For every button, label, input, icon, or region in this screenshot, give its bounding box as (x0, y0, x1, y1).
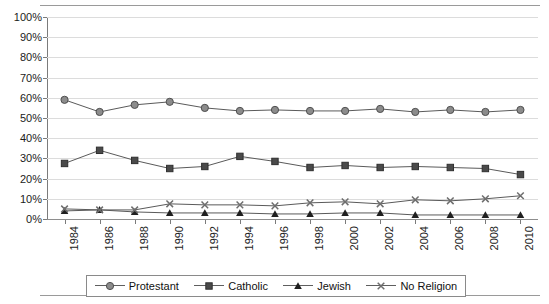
x-axis-label-2006: 2006 (454, 226, 465, 250)
data-point-marker-circle (412, 108, 419, 115)
data-point-marker-square (377, 164, 383, 170)
legend-marker-triangle-icon (283, 280, 313, 292)
data-point-marker-square (307, 164, 313, 170)
legend-label: Jewish (317, 280, 351, 292)
y-axis-label-40%: 40% (20, 133, 42, 144)
data-point-marker-square (96, 147, 102, 153)
y-axis-label-50%: 50% (20, 113, 42, 124)
x-axis-label-1996: 1996 (279, 226, 290, 250)
chart-page: 0%10%20%30%40%50%60%70%80%90%100% 198419… (0, 0, 549, 304)
line-chart-figure: 0%10%20%30%40%50%60%70%80%90%100% 198419… (0, 10, 549, 295)
x-tick-mark (205, 220, 206, 224)
x-axis-label-1986: 1986 (104, 226, 115, 250)
x-axis-label-1984: 1984 (69, 226, 80, 250)
top-divider-rule (40, 5, 540, 6)
legend-marker-circle-icon (95, 280, 125, 292)
x-tick-mark (65, 220, 66, 224)
y-axis-label-70%: 70% (20, 72, 42, 83)
x-tick-mark (485, 220, 486, 224)
plot-area: 0%10%20%30%40%50%60%70%80%90%100% 198419… (47, 17, 538, 229)
data-point-marker-circle (106, 282, 113, 289)
data-point-marker-square (206, 283, 212, 289)
x-tick-mark (310, 220, 311, 224)
data-point-marker-circle (342, 107, 349, 114)
legend-label: Catholic (228, 280, 268, 292)
data-point-marker-square (412, 163, 418, 169)
series-catholic (61, 147, 523, 178)
y-axis-label-20%: 20% (20, 173, 42, 184)
x-tick-mark (415, 220, 416, 224)
x-tick-mark (170, 220, 171, 224)
x-tick-mark (380, 220, 381, 224)
x-axis-label-2000: 2000 (349, 226, 360, 250)
chart-legend: ProtestantCatholicJewishNo Religion (86, 275, 466, 297)
y-axis-label-80%: 80% (20, 52, 42, 63)
legend-label: Protestant (129, 280, 179, 292)
data-point-marker-circle (201, 104, 208, 111)
x-tick-mark (345, 220, 346, 224)
x-axis-label-1990: 1990 (174, 226, 185, 250)
series-protestant (61, 96, 524, 115)
legend-item-protestant[interactable]: Protestant (95, 280, 179, 292)
data-point-marker-square (482, 165, 488, 171)
x-tick-mark (100, 220, 101, 224)
x-tick-mark (450, 220, 451, 224)
x-axis-label-2008: 2008 (489, 226, 500, 250)
x-axis-label-1994: 1994 (244, 226, 255, 250)
series-lines-group (47, 17, 538, 220)
x-axis-label-2010: 2010 (524, 226, 535, 250)
data-point-marker-square (202, 163, 208, 169)
data-point-marker-square (447, 164, 453, 170)
data-point-marker-x (378, 283, 385, 290)
x-tick-mark (275, 220, 276, 224)
x-tick-mark (520, 220, 521, 224)
legend-label: No Religion (400, 280, 457, 292)
x-tick-mark (135, 220, 136, 224)
y-axis-label-90%: 90% (20, 32, 42, 43)
data-point-marker-triangle (295, 282, 303, 289)
data-point-marker-circle (482, 108, 489, 115)
data-point-marker-square (342, 162, 348, 168)
y-axis-label-10%: 10% (20, 193, 42, 204)
x-tick-mark (240, 220, 241, 224)
data-point-marker-circle (306, 107, 313, 114)
data-point-marker-square (237, 153, 243, 159)
data-point-marker-circle (236, 107, 243, 114)
y-axis-label-100%: 100% (14, 12, 42, 23)
data-point-marker-square (272, 158, 278, 164)
y-axis-label-60%: 60% (20, 92, 42, 103)
data-point-marker-circle (517, 106, 524, 113)
x-axis-label-2002: 2002 (384, 226, 395, 250)
x-axis-label-1998: 1998 (314, 226, 325, 250)
legend-item-catholic[interactable]: Catholic (194, 280, 268, 292)
data-point-marker-square (61, 160, 67, 166)
data-point-marker-circle (131, 101, 138, 108)
y-axis-label-30%: 30% (20, 153, 42, 164)
data-point-marker-square (517, 171, 523, 177)
x-axis-label-2004: 2004 (419, 226, 430, 250)
data-point-marker-circle (61, 96, 68, 103)
x-axis-label-1988: 1988 (139, 226, 150, 250)
data-point-marker-circle (377, 105, 384, 112)
data-point-marker-square (131, 157, 137, 163)
data-point-marker-circle (166, 98, 173, 105)
x-axis-label-1992: 1992 (209, 226, 220, 250)
series-no-religion (61, 192, 524, 213)
y-axis-label-0%: 0% (26, 214, 42, 225)
legend-marker-x-icon (366, 280, 396, 292)
data-point-marker-circle (96, 108, 103, 115)
data-point-marker-circle (447, 106, 454, 113)
legend-item-no-religion[interactable]: No Religion (366, 280, 457, 292)
data-point-marker-square (167, 165, 173, 171)
legend-item-jewish[interactable]: Jewish (283, 280, 351, 292)
data-point-marker-circle (271, 106, 278, 113)
legend-marker-square-icon (194, 280, 224, 292)
series-jewish (61, 206, 525, 218)
plot-canvas: 0%10%20%30%40%50%60%70%80%90%100% 198419… (47, 17, 538, 219)
